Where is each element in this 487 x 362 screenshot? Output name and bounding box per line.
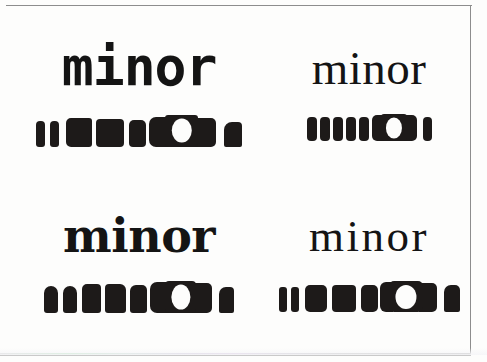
blob (36, 121, 45, 147)
blob (320, 117, 330, 141)
blob-with-counter (389, 281, 423, 312)
page-border-top (6, 5, 472, 6)
blob (105, 284, 126, 313)
blob (307, 117, 317, 141)
blob (66, 118, 92, 147)
blob (224, 122, 242, 147)
blob-with-counter (381, 114, 407, 141)
specimen-word-top-right: minor (312, 45, 427, 92)
blob (50, 121, 59, 147)
specimen-bottom-right: minor (270, 178, 468, 348)
blob (291, 287, 299, 312)
figure-page: minor (0, 0, 487, 362)
specimen-word-bottom-right: minor (309, 214, 429, 259)
blob (333, 117, 343, 141)
blob (96, 119, 124, 147)
blob (444, 285, 460, 312)
specimen-word-top-left: minor (62, 40, 217, 93)
page-border-bottom-shadow (0, 355, 471, 356)
specimen-bottom-left: minor (8, 178, 270, 348)
blurred-word-top-left (36, 115, 242, 147)
specimen-top-left: minor (8, 8, 270, 178)
specimen-grid: minor (8, 8, 468, 348)
blob (279, 287, 287, 312)
blob (129, 120, 146, 147)
blob (346, 117, 356, 141)
specimen-word-bottom-left: minor (63, 213, 215, 259)
page-border-right (470, 5, 471, 353)
blurred-word-top-right (307, 114, 432, 141)
specimen-top-right: minor (270, 8, 468, 178)
blob (305, 285, 327, 312)
blob (332, 285, 356, 312)
blob (130, 285, 147, 313)
blob (82, 284, 101, 313)
blob (219, 287, 234, 313)
blob-with-counter (165, 115, 198, 147)
blurred-word-bottom-right (279, 281, 460, 312)
blob (361, 285, 378, 312)
blob-with-counter (165, 281, 196, 313)
blob (63, 286, 77, 313)
blob (44, 286, 58, 313)
blob (423, 117, 432, 141)
blob (359, 117, 369, 141)
blurred-word-bottom-left (44, 281, 234, 313)
